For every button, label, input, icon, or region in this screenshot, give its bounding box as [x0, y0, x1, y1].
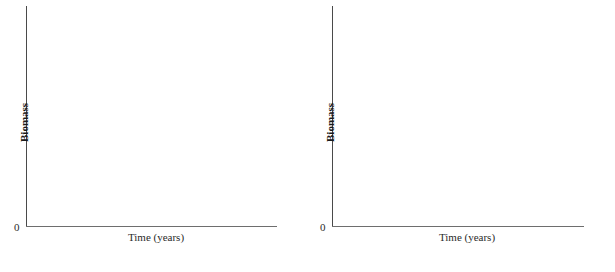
figure-container: 0 Time (years) Biomass 0 Time (years) Bi…	[0, 0, 615, 272]
x-axis-line	[26, 226, 277, 227]
y-axis-title: Biomass	[325, 103, 336, 142]
origin-tick-label: 0	[320, 222, 326, 233]
chart-panel-right: 0 Time (years) Biomass	[307, 0, 615, 272]
x-axis-line	[332, 226, 584, 227]
x-axis-title: Time (years)	[407, 231, 527, 244]
origin-tick-label: 0	[14, 222, 20, 233]
y-axis-title: Biomass	[19, 103, 30, 142]
x-axis-title: Time (years)	[96, 231, 216, 244]
chart-panel-left: 0 Time (years) Biomass	[0, 0, 307, 272]
